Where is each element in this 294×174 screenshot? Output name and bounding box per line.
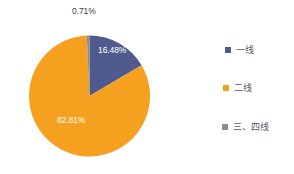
legend-label-third: 三、四线: [233, 121, 269, 133]
pie-label-third: 0.71%: [72, 6, 96, 16]
pie-label-second: 82.81%: [57, 115, 85, 125]
legend-swatch-icon-third: [222, 124, 228, 130]
legend-swatch-icon-second: [223, 85, 229, 91]
legend-item-third[interactable]: 三、四线: [222, 121, 269, 133]
legend: 一线 二线 三、四线: [222, 36, 294, 146]
pie-chart: 16.48% 82.81% 0.71% 一线 二线 三、四线: [0, 0, 294, 174]
legend-item-second[interactable]: 二线: [223, 82, 252, 94]
legend-swatch-icon-first: [225, 47, 231, 53]
pie-plot-area: 16.48% 82.81% 0.71%: [0, 0, 200, 174]
pie-label-first: 16.48%: [98, 45, 126, 55]
legend-label-second: 二线: [234, 82, 252, 94]
legend-item-first[interactable]: 一线: [225, 44, 254, 56]
pie-svg: [0, 0, 200, 174]
legend-label-first: 一线: [236, 44, 254, 56]
